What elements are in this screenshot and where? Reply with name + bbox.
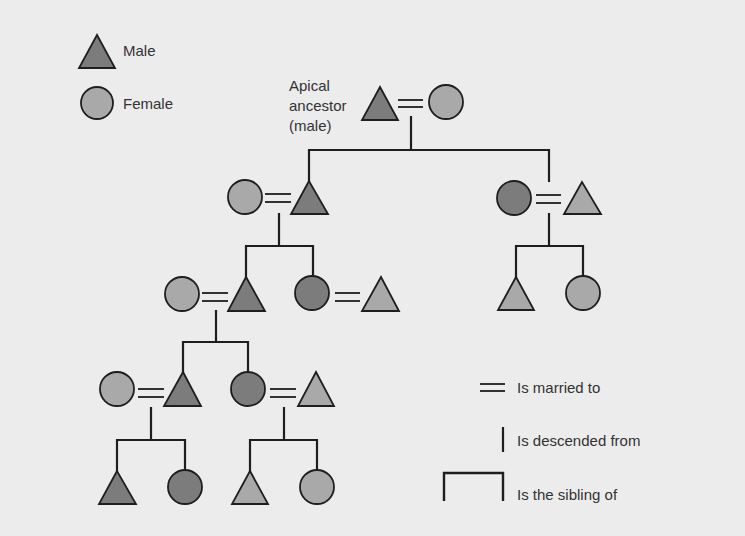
- apical-wife: [429, 85, 463, 119]
- gen2-daughter: [497, 181, 531, 215]
- gen4-son: [164, 372, 201, 406]
- sibling-legend-icon: [444, 473, 503, 501]
- married-legend-icon: [480, 384, 505, 391]
- gen3-son: [228, 277, 265, 311]
- gen3-right-daughter: [566, 276, 600, 310]
- gen2-son: [291, 181, 328, 214]
- gen5-right-daughter: [300, 470, 334, 504]
- kinship-diagram: [0, 0, 745, 536]
- descended-legend-label: Is descended from: [517, 432, 640, 450]
- sibling-legend-label: Is the sibling of: [517, 486, 617, 504]
- gen4-wife: [100, 372, 134, 406]
- gen4-daughter-husband: [298, 372, 334, 406]
- gen3-daughter-husband: [362, 277, 399, 311]
- gen5-right-son: [232, 471, 268, 504]
- gen3-right-son: [498, 277, 534, 310]
- apical-line-1: Apical: [289, 76, 347, 96]
- gen5-left-daughter: [168, 470, 202, 504]
- gen2-right-husband: [564, 182, 601, 214]
- gen2-left-wife: [228, 180, 262, 214]
- apical-line-3: (male): [289, 116, 347, 136]
- male-legend-icon: [79, 35, 115, 68]
- apical-line-2: ancestor: [289, 96, 347, 116]
- gen4-daughter: [231, 372, 265, 406]
- gen3-daughter: [295, 276, 329, 310]
- apical-ancestor-male: [362, 87, 398, 120]
- female-legend-icon: [81, 87, 113, 119]
- married-legend-label: Is married to: [517, 379, 600, 397]
- gen3-wife: [165, 277, 199, 311]
- gen5-left-son: [99, 471, 136, 504]
- male-legend-label: Male: [123, 42, 156, 60]
- female-legend-label: Female: [123, 95, 173, 113]
- apical-ancestor-label: Apical ancestor (male): [289, 76, 347, 136]
